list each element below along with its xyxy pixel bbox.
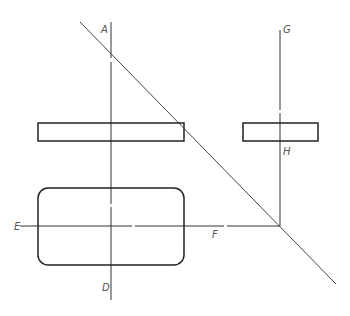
projection-drawing: A D E F G H bbox=[0, 0, 350, 316]
label-a: A bbox=[100, 24, 108, 35]
label-e: E bbox=[14, 221, 21, 232]
label-f: F bbox=[212, 229, 218, 240]
label-d: D bbox=[102, 282, 110, 293]
label-h: H bbox=[283, 146, 291, 157]
diagonal-projection-line bbox=[80, 22, 336, 284]
label-g: G bbox=[283, 24, 291, 35]
